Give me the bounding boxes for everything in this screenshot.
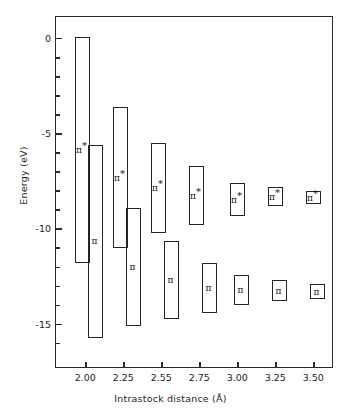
y-tick-label: -15 bbox=[35, 318, 51, 329]
band-label: π bbox=[168, 275, 174, 284]
y-tick-minor bbox=[55, 267, 60, 268]
x-tick: 3.50 bbox=[313, 362, 314, 368]
y-tick-minor bbox=[55, 152, 60, 153]
x-tick-label: 2.55 bbox=[151, 372, 172, 383]
x-tick-label: 3.25 bbox=[265, 372, 286, 383]
y-tick-major: -10 bbox=[55, 228, 62, 229]
y-tick-label: -10 bbox=[35, 223, 51, 234]
y-tick-minor bbox=[55, 57, 60, 58]
band-label: π* bbox=[152, 184, 163, 193]
x-tick: 3.00 bbox=[237, 362, 238, 368]
y-tick-major: 0 bbox=[55, 38, 62, 39]
y-tick-minor bbox=[55, 190, 60, 191]
band-label: π bbox=[314, 287, 320, 296]
y-tick-label: 0 bbox=[45, 33, 51, 44]
y-tick-label: -5 bbox=[42, 128, 51, 139]
band-label: π* bbox=[76, 146, 87, 155]
x-tick: 2.75 bbox=[199, 362, 200, 368]
x-tick-label: 3.50 bbox=[303, 372, 324, 383]
x-tick: 3.25 bbox=[275, 362, 276, 368]
y-tick-minor bbox=[55, 95, 60, 96]
x-axis-title: Intrastock distance (Å) bbox=[0, 393, 341, 404]
y-tick-major: -5 bbox=[55, 133, 62, 134]
y-axis-title: Energy (eV) bbox=[18, 106, 29, 246]
y-tick-major: -15 bbox=[55, 324, 62, 325]
y-tick-minor bbox=[55, 171, 60, 172]
band-label: π* bbox=[114, 173, 125, 182]
band-label: π* bbox=[231, 195, 242, 204]
band-label: π bbox=[276, 286, 282, 295]
y-tick-minor bbox=[55, 114, 60, 115]
plot-area: 0-5-10-15 2.002.252.552.753.003.253.50 π… bbox=[55, 16, 333, 368]
x-tick: 2.00 bbox=[85, 362, 86, 368]
x-tick: 2.25 bbox=[123, 362, 124, 368]
band-label: π* bbox=[307, 193, 318, 202]
x-tick-label: 3.00 bbox=[227, 372, 248, 383]
y-tick-minor bbox=[55, 247, 60, 248]
band-label: π bbox=[130, 263, 136, 272]
band-structure-figure: Energy (eV) Intrastock distance (Å) 0-5-… bbox=[0, 0, 341, 420]
y-tick-minor bbox=[55, 209, 60, 210]
x-tick-label: 2.75 bbox=[189, 372, 210, 383]
y-tick-minor bbox=[55, 305, 60, 306]
band-label: π* bbox=[190, 191, 201, 200]
x-tick-label: 2.25 bbox=[113, 372, 134, 383]
y-tick-minor bbox=[55, 343, 60, 344]
band-label: π bbox=[238, 285, 244, 294]
band-label: π bbox=[206, 284, 212, 293]
y-tick-minor bbox=[55, 76, 60, 77]
y-tick-minor bbox=[55, 286, 60, 287]
x-tick-label: 2.00 bbox=[75, 372, 96, 383]
band-label: π* bbox=[269, 192, 280, 201]
band-label: π bbox=[92, 237, 98, 246]
x-tick: 2.55 bbox=[161, 362, 162, 368]
